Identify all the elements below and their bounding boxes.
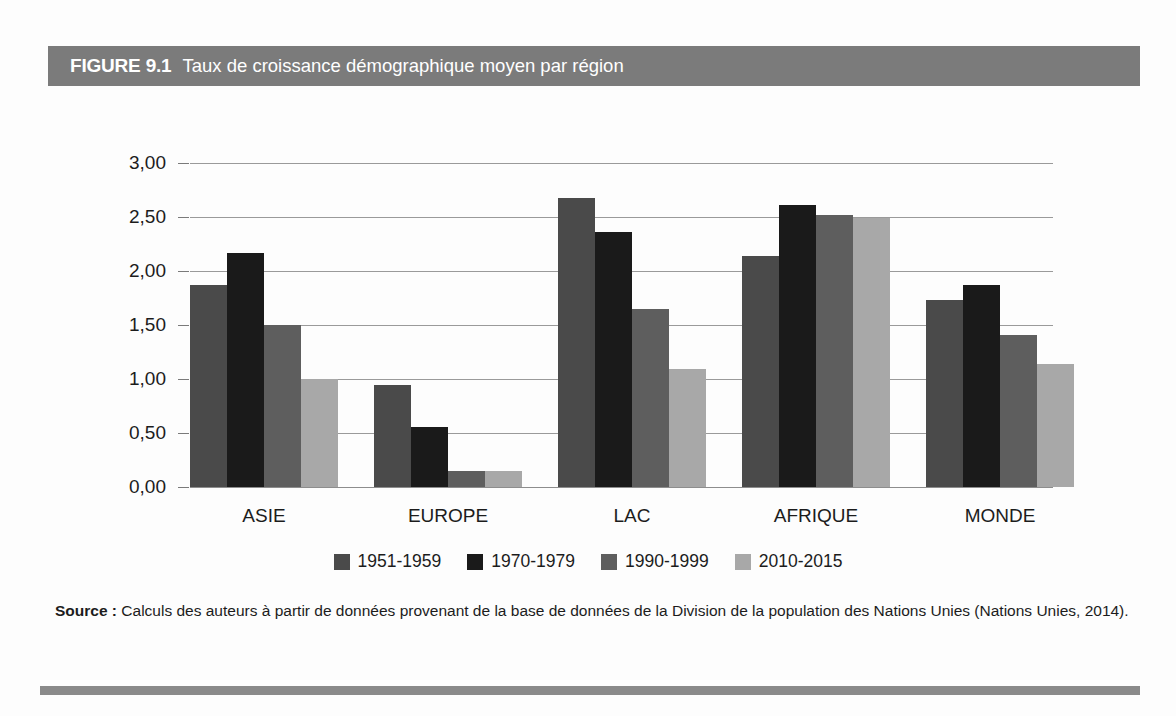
x-label-asie: ASIE [242,505,285,527]
source-text: Calculs des auteurs à partir de données … [117,602,1129,619]
y-tick-label: 1,50 [104,314,166,336]
bar-monde-2010-2015 [1037,364,1074,487]
y-tick-label: 2,00 [104,260,166,282]
legend-item-2010-2015[interactable]: 2010-2015 [735,551,843,572]
legend-swatch-icon [334,554,350,570]
y-tick-label: 0,00 [104,476,166,498]
y-tick-mark [178,163,189,164]
bar-asie-1990-1999 [264,325,301,487]
bar-afrique-1951-1959 [742,256,779,487]
bar-monde-1951-1959 [926,300,963,487]
y-tick-label: 0,50 [104,422,166,444]
x-label-lac: LAC [614,505,651,527]
legend-item-1970-1979[interactable]: 1970-1979 [467,551,575,572]
figure-container: FIGURE 9.1 Taux de croissance démographi… [0,0,1176,716]
bar-asie-1970-1979 [227,253,264,487]
y-tick-mark [178,271,189,272]
bar-lac-1990-1999 [632,309,669,487]
y-tick-label: 2,50 [104,206,166,228]
bar-asie-2010-2015 [301,379,338,487]
bar-lac-2010-2015 [669,369,706,487]
bar-europe-1951-1959 [374,385,411,487]
legend-item-1951-1959[interactable]: 1951-1959 [334,551,442,572]
source-label: Source : [55,602,117,619]
y-tick-mark [178,433,189,434]
x-label-europe: EUROPE [408,505,488,527]
bar-europe-1990-1999 [448,471,485,487]
legend-swatch-icon [735,554,751,570]
legend-label: 1970-1979 [491,551,575,572]
source-note: Source : Calculs des auteurs à partir de… [55,600,1135,622]
y-tick-label: 3,00 [104,152,166,174]
y-tick-label: 1,00 [104,368,166,390]
legend-swatch-icon [601,554,617,570]
bar-lac-1970-1979 [595,232,632,487]
gridline-2-50 [190,217,1053,218]
bar-monde-1990-1999 [1000,335,1037,487]
legend-label: 2010-2015 [759,551,843,572]
bottom-rule [40,686,1140,695]
legend-label: 1951-1959 [358,551,442,572]
bar-asie-1951-1959 [190,285,227,487]
chart-legend: 1951-19591970-19791990-19992010-2015 [0,551,1176,572]
y-tick-mark [178,325,189,326]
bar-europe-2010-2015 [485,471,522,487]
y-tick-mark [178,379,189,380]
x-label-monde: MONDE [965,505,1036,527]
y-tick-mark [178,487,189,488]
bar-monde-1970-1979 [963,285,1000,487]
legend-item-1990-1999[interactable]: 1990-1999 [601,551,709,572]
bar-lac-1951-1959 [558,198,595,487]
legend-label: 1990-1999 [625,551,709,572]
x-label-afrique: AFRIQUE [774,505,858,527]
legend-swatch-icon [467,554,483,570]
bar-afrique-1990-1999 [816,215,853,487]
y-tick-mark [178,217,189,218]
bar-europe-1970-1979 [411,427,448,487]
gridline-3-00 [190,163,1053,164]
gridline-0-00 [190,487,1053,488]
bar-afrique-2010-2015 [853,218,890,487]
bar-afrique-1970-1979 [779,205,816,487]
